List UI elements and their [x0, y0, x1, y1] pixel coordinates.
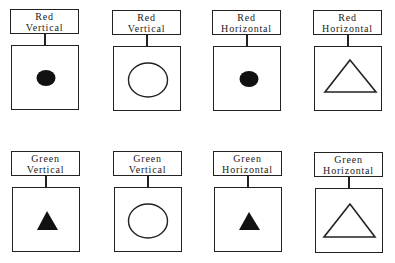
label-color: Green: [114, 153, 181, 164]
label-color: Red: [113, 12, 180, 23]
label-box: Red Horizontal: [313, 10, 382, 35]
label-box: Red Horizontal: [212, 10, 281, 35]
label-orientation: Horizontal: [214, 164, 281, 175]
connector-line: [246, 34, 248, 46]
label-box: Green Vertical: [11, 151, 80, 176]
connector-line: [347, 34, 349, 46]
filled-triangle-icon: [215, 188, 281, 251]
connector-line: [146, 34, 148, 46]
label-box: Green Horizontal: [213, 151, 282, 176]
label-box: Red Vertical: [112, 10, 181, 35]
label-color: Green: [12, 153, 79, 164]
stimulus-box: [113, 46, 181, 111]
connector-line: [44, 33, 46, 45]
connector-line: [147, 175, 149, 187]
connector-line: [45, 175, 47, 187]
filled-circle-icon: [214, 47, 280, 110]
outline-triangle-icon: [315, 47, 381, 110]
outline-circle-icon: [114, 47, 180, 110]
outline-triangle-icon: [316, 189, 382, 252]
label-orientation: Horizontal: [314, 23, 381, 34]
stimulus-box: [12, 187, 80, 252]
stimulus-box: [314, 46, 382, 111]
connector-line: [247, 175, 249, 187]
stimulus-box: [114, 187, 182, 252]
label-orientation: Vertical: [113, 23, 180, 34]
filled-circle-icon: [12, 46, 78, 109]
label-color: Green: [315, 154, 382, 165]
label-box: Green Horizontal: [314, 152, 383, 177]
label-orientation: Vertical: [114, 164, 181, 175]
stimulus-box: [213, 46, 281, 111]
label-color: Red: [314, 12, 381, 23]
outline-circle-icon: [115, 188, 181, 251]
label-color: Red: [213, 12, 280, 23]
stimulus-box: [315, 188, 383, 253]
stimulus-box: [11, 45, 79, 110]
label-orientation: Vertical: [11, 22, 78, 33]
label-box: Green Vertical: [113, 151, 182, 176]
stimulus-box: [214, 187, 282, 252]
filled-triangle-icon: [13, 188, 79, 251]
label-color: Green: [214, 153, 281, 164]
label-box: Red Vertical: [10, 9, 79, 34]
connector-line: [348, 176, 350, 188]
label-orientation: Horizontal: [213, 23, 280, 34]
label-orientation: Horizontal: [315, 165, 382, 176]
label-orientation: Vertical: [12, 164, 79, 175]
label-color: Red: [11, 11, 78, 22]
